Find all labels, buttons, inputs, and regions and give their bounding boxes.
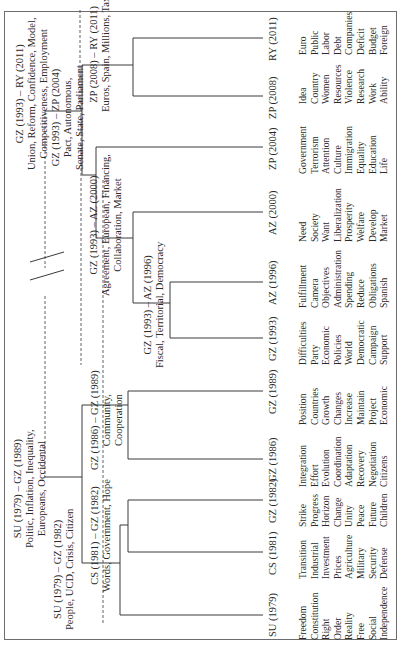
- word-list-AZ1996: FulfillmentCameraObjectivesAdministratio…: [297, 250, 390, 308]
- word-list-SU1979: FreedomConstitutionRightOrderRealityFree…: [297, 587, 390, 640]
- leaf-label-RY2011: RY (2011): [267, 17, 279, 61]
- word-list-GZ1989: PositionCountriesGrowthChangesIncreaseMa…: [297, 386, 390, 425]
- word-list-AZ2000: NeedSocietyWantLiberalizationProsperityW…: [297, 188, 390, 242]
- cluster-label-n9: GZ (1993) – AZ (1996) Fiscal, Territoria…: [142, 242, 166, 368]
- cluster-label-n4: GZ (1986) – GZ (1989) Community, Coopera…: [89, 370, 125, 470]
- word-list-CS1981: TransitionIndustrialInvestmentPricesAgri…: [297, 535, 390, 579]
- leaf-label-GZ1986: GZ (1986): [267, 437, 279, 482]
- cluster-label-n8: GZ (1993) – AZ (2000) Agreement, Europea…: [88, 154, 124, 296]
- leaf-label-CS1981: CS (1981): [267, 532, 279, 575]
- cluster-label-n7: ZP (2008) – RY (2011) Euros, Spain, Mill…: [88, 0, 112, 112]
- word-list-RY2011: EuroPublicLaborDebtCompaniesDeficitBudge…: [297, 12, 390, 55]
- leaf-label-GZ1993: GZ (1993): [267, 316, 279, 361]
- word-list-GZ1986: IntegrationEffortEvolutionCoordinationAd…: [297, 436, 390, 487]
- leaf-label-GZ1989: GZ (1989): [267, 369, 279, 414]
- leaf-label-AZ1996: AZ (1996): [267, 260, 279, 305]
- cluster-label-n1: SU (1979) – GZ (1989) Politic, Inflation…: [12, 429, 48, 548]
- leaf-label-ZP2004: ZP (2004): [267, 128, 279, 170]
- word-list-GZ1982: StrikeProgressHorizonChangeUnityPeaceFut…: [297, 493, 390, 527]
- word-list-ZP2008: IdeaCountryWomenResourcesViolenceResearc…: [297, 65, 390, 104]
- cluster-label-n6: GZ (1993) – ZP (2004) Pact, Autonomous, …: [50, 65, 86, 170]
- leaf-label-ZP2008: ZP (2008): [267, 77, 279, 119]
- leaf-label-SU1979: SU (1979): [267, 593, 279, 637]
- cluster-label-n3: CS (1981) – GZ (1982) Words, Government,…: [89, 479, 113, 592]
- cluster-label-n2: SU (1979) – GZ (1982) People, UCD, Crisi…: [52, 509, 76, 630]
- cluster-label-n5: GZ (1993) – RY (2011) Union, Reform, Con…: [14, 17, 50, 170]
- leaf-label-AZ2000: AZ (2000): [267, 190, 279, 235]
- leaf-label-GZ1982: GZ (1982): [267, 478, 279, 523]
- word-list-ZP2004: GovernmentTerrorismAttentionCultureImmig…: [297, 126, 390, 174]
- word-list-GZ1993: DifficultiesPartyEconomicPoliciesWorldDe…: [297, 320, 390, 365]
